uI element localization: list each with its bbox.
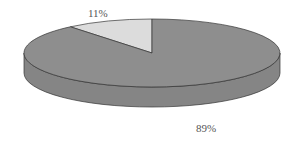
pie-group [24, 19, 280, 107]
slice-label-0: 89% [196, 122, 216, 134]
pie-slice-0 [24, 19, 280, 87]
slice-label-1: 11% [88, 7, 108, 19]
pie-chart: 11% 89% [0, 0, 301, 143]
